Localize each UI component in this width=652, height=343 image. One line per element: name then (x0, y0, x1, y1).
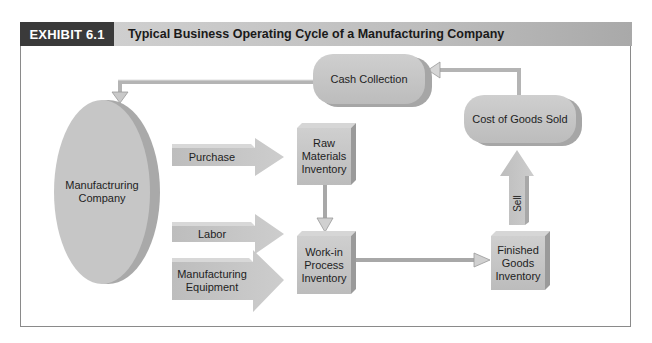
equipment-label: Manufacturing Equipment (172, 262, 252, 300)
finished-goods-label: Finished Goods Inventory (491, 236, 545, 290)
cogs-to-cash-connector (428, 62, 519, 95)
labor-label: Labor (172, 226, 252, 242)
sell-label: Sell (512, 189, 523, 219)
company-label: Manufactruring Company (58, 172, 146, 212)
raw-to-wip-connector (317, 185, 333, 232)
wip-label: Work-in Process Inventory (297, 236, 351, 294)
raw-materials-label: Raw Materials Inventory (297, 128, 351, 185)
cash-collection-label: Cash Collection (313, 54, 425, 104)
cogs-label: Cost of Goods Sold (464, 95, 576, 143)
cash-to-company-connector (112, 80, 313, 103)
purchase-label: Purchase (172, 148, 252, 166)
wip-to-finished-connector (356, 253, 490, 267)
